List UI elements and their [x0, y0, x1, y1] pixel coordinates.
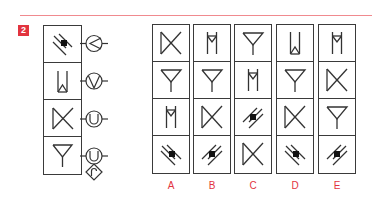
option-e-column[interactable]: [318, 24, 356, 174]
option-cell: [194, 62, 230, 99]
diagonal-square-slash-icon: [194, 136, 230, 173]
trap-down-icon: [194, 25, 230, 62]
funnel-icon: [194, 62, 230, 99]
option-cell: [277, 25, 313, 62]
option-cell: [319, 136, 355, 173]
question-number-badge: 2: [18, 25, 29, 36]
funnel-icon: [235, 25, 271, 62]
diagonal-square-slash-icon: [319, 136, 355, 173]
option-c-label[interactable]: C: [235, 180, 271, 191]
diagonal-square-backslash-icon: [153, 136, 189, 173]
option-cell: [194, 99, 230, 136]
trap-down-icon: [235, 62, 271, 99]
diagonal-square-backslash-icon: [44, 26, 81, 63]
funnel-icon: [44, 137, 81, 174]
funnel-icon: [319, 99, 355, 136]
trap-up-icon: [44, 63, 81, 100]
stack-cell-3: [44, 100, 81, 137]
option-cell: [153, 136, 189, 173]
stack-cell-4: [44, 137, 81, 174]
option-cell: [235, 136, 271, 173]
diamond-hook-icon: [86, 164, 102, 180]
question-stack: [43, 25, 82, 175]
option-a-label[interactable]: A: [153, 180, 189, 191]
option-cell: [194, 25, 230, 62]
bowtie-icon: [194, 99, 230, 136]
option-cell: [319, 99, 355, 136]
option-cell: [319, 25, 355, 62]
option-cell: [235, 62, 271, 99]
trap-up-icon: [277, 25, 313, 62]
connector-symbols: [80, 25, 114, 195]
option-cell: [153, 25, 189, 62]
bowtie-icon: [153, 25, 189, 62]
option-cell: [277, 62, 313, 99]
option-cell: [235, 25, 271, 62]
stack-cell-1: [44, 26, 81, 63]
bowtie-icon: [235, 136, 271, 173]
bowtie-icon: [277, 99, 313, 136]
option-b-column[interactable]: [193, 24, 231, 174]
option-e-label[interactable]: E: [319, 180, 355, 191]
option-b-label[interactable]: B: [194, 180, 230, 191]
funnel-icon: [277, 62, 313, 99]
option-cell: [319, 62, 355, 99]
option-cell: [235, 99, 271, 136]
option-c-column[interactable]: [234, 24, 272, 174]
stack-cell-2: [44, 63, 81, 100]
option-cell: [277, 99, 313, 136]
diagonal-square-backslash-icon: [277, 136, 313, 173]
funnel-icon: [153, 62, 189, 99]
option-cell: [153, 99, 189, 136]
bowtie-icon: [44, 100, 81, 137]
option-a-column[interactable]: [152, 24, 190, 174]
option-cell: [194, 136, 230, 173]
option-cell: [277, 136, 313, 173]
option-cell: [153, 62, 189, 99]
trap-down-icon: [319, 25, 355, 62]
diagonal-square-slash-icon: [235, 99, 271, 136]
option-d-label[interactable]: D: [277, 180, 313, 191]
header-rule: [20, 15, 372, 16]
trap-down-icon: [153, 99, 189, 136]
option-d-column[interactable]: [276, 24, 314, 174]
circle-chevron-left-icon: [86, 36, 102, 52]
bowtie-icon: [319, 62, 355, 99]
